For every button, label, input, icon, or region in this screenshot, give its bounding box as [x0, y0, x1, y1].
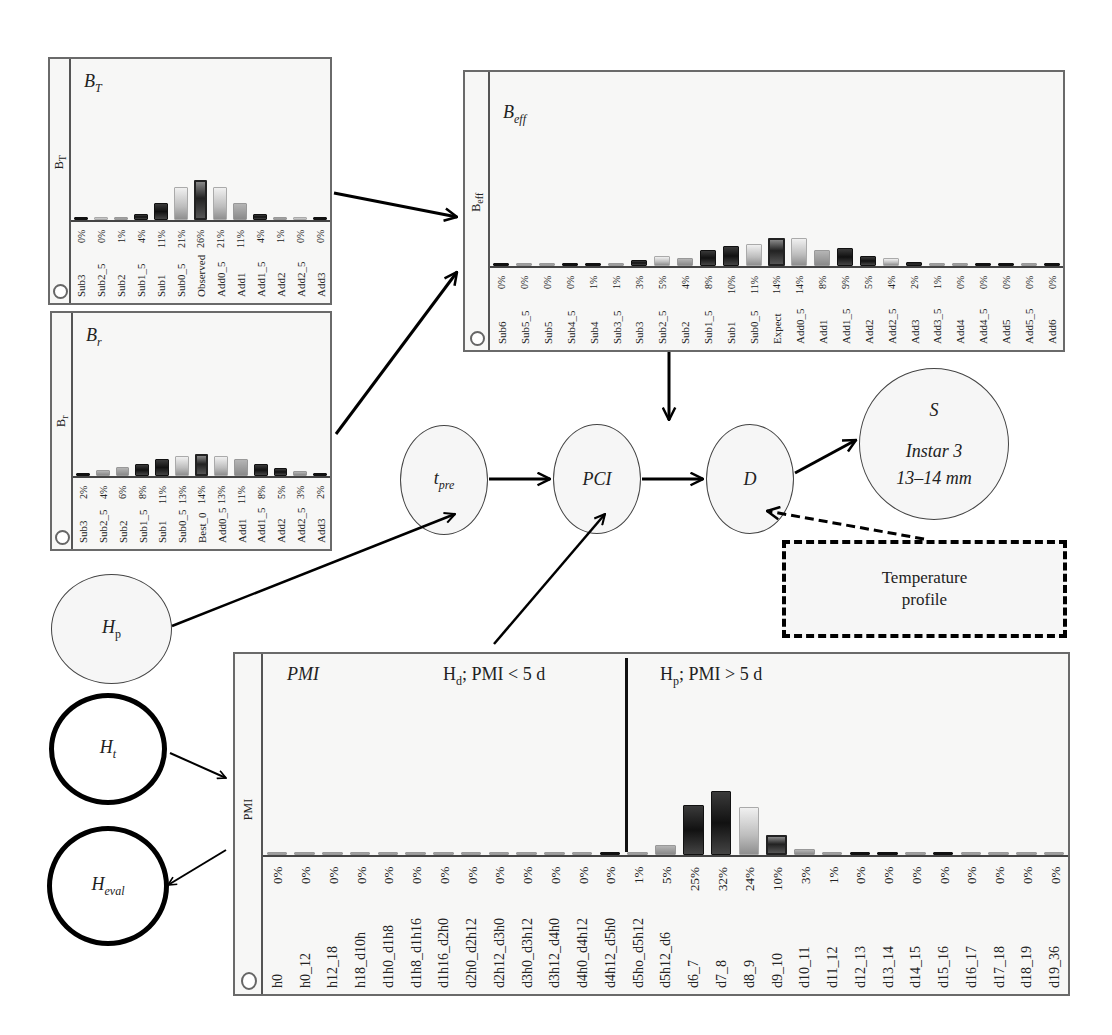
pmi-axis-label: 0%d1h16_d2h0 — [430, 857, 458, 994]
br-bar-Sub1[interactable] — [155, 459, 169, 476]
node-tpre[interactable]: tpre — [400, 425, 488, 535]
pmi-bar-d3h0_d3h12[interactable] — [516, 852, 537, 855]
beff-bar-Sub3_5[interactable] — [608, 263, 624, 266]
pmi-bar-d1h0_d1h8[interactable] — [378, 852, 399, 855]
pmi-bar-d1h8_d1h16[interactable] — [405, 852, 426, 855]
bt-bar-Add2_5[interactable] — [293, 217, 307, 220]
br-bar-Add2_5[interactable] — [293, 471, 307, 476]
pmi-bar-d14_15[interactable] — [905, 852, 926, 855]
pmi-value-label: 0% — [548, 867, 564, 884]
beff-bar-Add3_5[interactable] — [929, 263, 945, 266]
temperature-profile-box[interactable]: Temperatureprofile — [782, 540, 1067, 638]
br-bar-Sub0_5[interactable] — [175, 456, 189, 476]
pmi-bar-h0_12[interactable] — [294, 852, 315, 855]
bt-bar-Sub2_5[interactable] — [94, 217, 108, 220]
pmi-bar-d2h12_d3h0[interactable] — [489, 852, 510, 855]
br-bar-Add3[interactable] — [313, 473, 327, 476]
pmi-bar-d4h12_d5h0[interactable] — [600, 852, 621, 855]
pmi-bar-d7_8[interactable] — [711, 791, 732, 855]
pmi-bar-d18_19[interactable] — [1016, 852, 1037, 855]
bt-bar-Sub2[interactable] — [114, 217, 128, 220]
pmi-bar-d12_13[interactable] — [850, 852, 871, 855]
beff-bar-Add5[interactable] — [998, 263, 1014, 266]
br-bar-Sub1_5[interactable] — [135, 464, 149, 476]
beff-bar-Add1_5[interactable] — [837, 248, 853, 266]
beff-bar-Sub1[interactable] — [723, 246, 739, 266]
pmi-collapse-toggle[interactable] — [241, 972, 257, 990]
pmi-bar-d2h0_d2h12[interactable] — [461, 852, 482, 855]
br-bar-Add2[interactable] — [274, 468, 288, 476]
beff-bar-Sub6[interactable] — [493, 263, 509, 266]
beff-collapse-toggle[interactable] — [470, 331, 485, 346]
pmi-axis-label: 0%d14_15 — [901, 857, 929, 994]
pmi-bar-h12_18[interactable] — [322, 852, 343, 855]
pmi-bar-d5ho_d5h12[interactable] — [627, 852, 648, 855]
pmi-bar-h0[interactable] — [267, 852, 288, 855]
br-bar-Sub2[interactable] — [116, 467, 130, 476]
pmi-bar-d17_18[interactable] — [988, 852, 1009, 855]
pmi-bar-d10_11[interactable] — [794, 849, 815, 855]
pmi-bar-h18_d10h[interactable] — [350, 852, 371, 855]
pmi-bar-d19_36[interactable] — [1044, 852, 1065, 855]
bt-bar-Sub0_5[interactable] — [174, 187, 188, 220]
node-ht[interactable]: Ht — [49, 693, 167, 805]
pmi-value-label: 0% — [881, 867, 897, 884]
pmi-bar-d13_14[interactable] — [877, 852, 898, 855]
pmi-bar-d11_12[interactable] — [822, 852, 843, 855]
bt-bar-Observed[interactable] — [194, 180, 208, 220]
bt-bar-Sub1[interactable] — [154, 203, 168, 220]
br-bar-Best_0[interactable] — [195, 454, 209, 476]
beff-bar-Expect[interactable] — [768, 238, 784, 266]
bt-collapse-toggle[interactable] — [53, 284, 68, 299]
pmi-bar-d3h12_d4h0[interactable] — [544, 852, 565, 855]
beff-value-label: 14% — [794, 276, 805, 294]
br-bar-Sub3[interactable] — [76, 473, 90, 476]
pmi-bar-d9_10[interactable] — [766, 835, 787, 855]
beff-bar-Sub5[interactable] — [539, 263, 555, 266]
br-bar-Add0_5[interactable] — [214, 456, 228, 476]
bt-bar-Add1[interactable] — [233, 203, 247, 220]
beff-bar-Sub4_5[interactable] — [562, 263, 578, 266]
beff-bar-Add5_5[interactable] — [1021, 263, 1037, 266]
beff-bar-Add3[interactable] — [906, 262, 922, 266]
pmi-bar-d15_16[interactable] — [933, 852, 954, 855]
bt-bar-Add2[interactable] — [273, 217, 287, 220]
node-d[interactable]: D — [706, 424, 794, 534]
beff-bar-Sub1_5[interactable] — [700, 250, 716, 266]
beff-bar-Add0_5[interactable] — [791, 238, 807, 266]
node-heval[interactable]: Heval — [47, 826, 169, 946]
bt-bar-Add3[interactable] — [313, 217, 327, 220]
pmi-bar-d8_9[interactable] — [739, 807, 760, 855]
node-s[interactable]: S Instar 3 13–14 mm — [859, 368, 1009, 520]
br-bar-Sub2_5[interactable] — [96, 470, 110, 476]
pmi-bar-d16_17[interactable] — [961, 852, 982, 855]
beff-bar-Sub3[interactable] — [631, 260, 647, 266]
bt-bar-Add1_5[interactable] — [253, 214, 267, 220]
pmi-axis-label: 0%h18_d10h — [346, 857, 374, 994]
node-pci[interactable]: PCI — [553, 424, 641, 534]
br-bar-Add1_5[interactable] — [254, 464, 268, 476]
beff-bar-Add4[interactable] — [952, 263, 968, 266]
pmi-value-label: 0% — [409, 867, 425, 884]
beff-bar-Add2[interactable] — [860, 256, 876, 266]
beff-bar-Sub4[interactable] — [585, 263, 601, 266]
beff-bar-Sub0_5[interactable] — [746, 244, 762, 266]
pmi-bar-d4h0_d4h12[interactable] — [572, 852, 593, 855]
beff-bar-Sub5_5[interactable] — [516, 263, 532, 266]
beff-bar-Add2_5[interactable] — [883, 258, 899, 266]
bt-bar-Sub3[interactable] — [74, 217, 88, 220]
beff-bar-Sub2[interactable] — [677, 258, 693, 266]
beff-bar-Sub2_5[interactable] — [654, 256, 670, 266]
beff-bar-Add1[interactable] — [814, 250, 830, 266]
beff-bar-Add4_5[interactable] — [975, 263, 991, 266]
br-bar-Add1[interactable] — [234, 459, 248, 476]
bt-bar-Sub1_5[interactable] — [134, 214, 148, 220]
pmi-bar-d6_7[interactable] — [683, 805, 704, 855]
pmi-panel: PMI PMI Hd; PMI < 5 d Hp; PMI > 5 d 0%h0… — [233, 652, 1070, 996]
beff-bar-Add6[interactable] — [1044, 263, 1060, 266]
node-hp[interactable]: Hp — [51, 574, 172, 684]
pmi-bar-d5h12_d6[interactable] — [655, 845, 676, 855]
pmi-bar-d1h16_d2h0[interactable] — [433, 852, 454, 855]
bt-bar-Add0_5[interactable] — [213, 187, 227, 220]
br-collapse-toggle[interactable] — [55, 530, 70, 545]
